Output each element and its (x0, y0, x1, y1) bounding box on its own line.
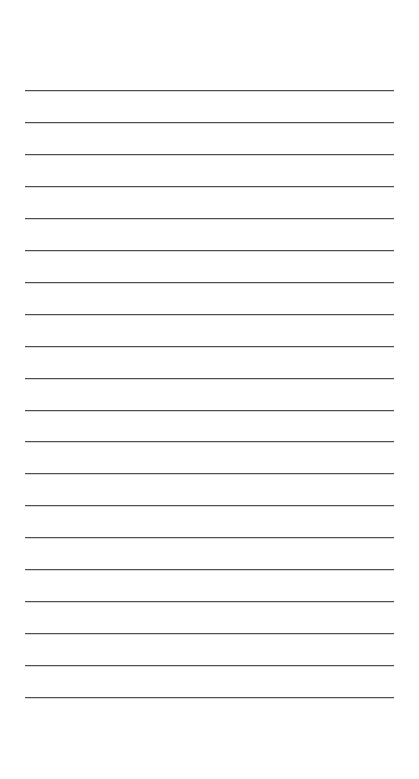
ruling-line (25, 378, 394, 379)
ruling-line (25, 569, 394, 570)
ruling-line (25, 314, 394, 315)
ruling-line (25, 601, 394, 602)
ruling-line (25, 90, 394, 91)
ruling-line (25, 250, 394, 251)
ruling-line (25, 218, 394, 219)
ruling-line (25, 186, 394, 187)
ruling-line (25, 122, 394, 123)
ruling-line (25, 697, 394, 698)
ruling-line (25, 441, 394, 442)
ruling-line (25, 537, 394, 538)
ruling-line (25, 410, 394, 411)
ruling-line (25, 633, 394, 634)
ruling-line (25, 665, 394, 666)
ruling-line (25, 154, 394, 155)
ruling-line (25, 346, 394, 347)
ruling-line (25, 282, 394, 283)
ruling-lines-group (0, 0, 419, 779)
lined-paper-page (0, 0, 419, 779)
ruling-line (25, 473, 394, 474)
ruling-line (25, 505, 394, 506)
